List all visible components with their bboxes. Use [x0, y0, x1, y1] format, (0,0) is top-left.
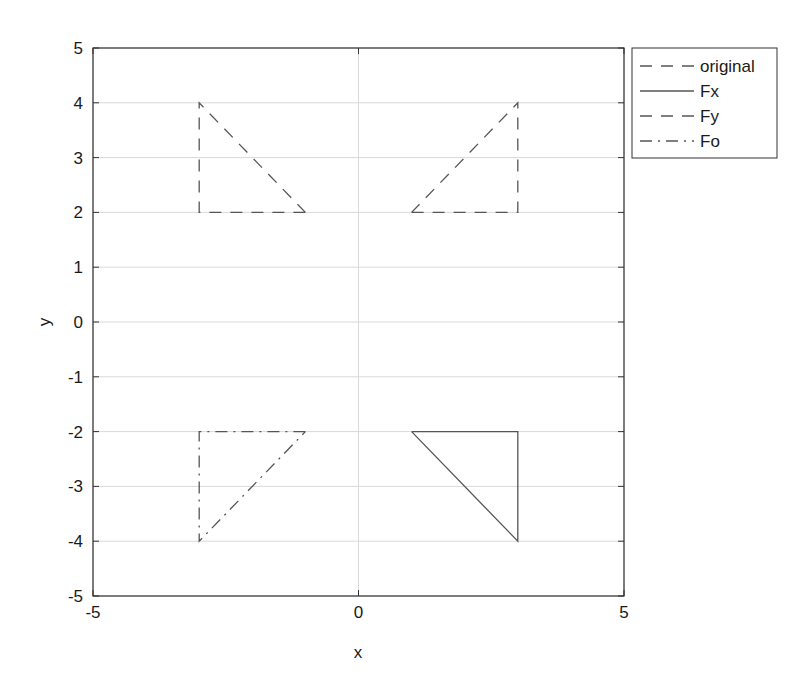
- y-tick-label: 4: [74, 94, 83, 113]
- y-tick-label: 0: [74, 313, 83, 332]
- chart: 543210-1-2-3-4-5-505 x y originalFxFyFo: [0, 0, 810, 698]
- y-tick-label: 3: [74, 149, 83, 168]
- y-tick-label: -4: [68, 532, 83, 551]
- y-tick-label: -2: [68, 423, 83, 442]
- y-axis-label: y: [35, 317, 54, 326]
- y-tick-label: -3: [68, 477, 83, 496]
- x-axis-label: x: [354, 643, 363, 662]
- y-tick-label: -5: [68, 587, 83, 606]
- x-tick-label: 0: [354, 603, 363, 622]
- legend-label: Fx: [700, 82, 719, 101]
- x-tick-label: 5: [619, 603, 628, 622]
- legend-label: original: [700, 57, 755, 76]
- legend-label: Fy: [700, 107, 719, 126]
- y-tick-label: 2: [74, 203, 83, 222]
- legend: originalFxFyFo: [632, 48, 777, 158]
- grid-lines: [93, 48, 624, 596]
- axis-ticks: 543210-1-2-3-4-5-505: [68, 39, 629, 622]
- y-tick-label: -1: [68, 368, 83, 387]
- legend-label: Fo: [700, 132, 720, 151]
- y-tick-label: 1: [74, 258, 83, 277]
- x-tick-label: -5: [85, 603, 100, 622]
- y-tick-label: 5: [74, 39, 83, 58]
